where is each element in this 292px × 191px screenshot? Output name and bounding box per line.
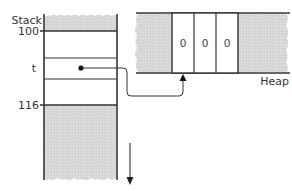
pointer-arrowhead-icon (180, 74, 187, 81)
memory-diagram: Stack 100 t 116 0 0 0 Heap (0, 0, 292, 191)
stack-bottom-shaded (45, 105, 116, 180)
heap-title: Heap (260, 75, 289, 88)
heap-cell-1: 0 (202, 37, 209, 49)
stack-region (40, 14, 117, 180)
heap-array: 0 0 0 (172, 13, 238, 73)
heap-region: 0 0 0 (135, 13, 290, 73)
stack-variable-t: t (32, 62, 37, 75)
stack-address-100: 100 (18, 25, 39, 38)
stack-growth-arrow-icon (127, 143, 134, 185)
stack-address-116: 116 (18, 99, 39, 112)
stack-top-shaded (45, 15, 116, 32)
heap-cell-2: 0 (224, 37, 231, 49)
heap-cell-0: 0 (180, 37, 187, 49)
